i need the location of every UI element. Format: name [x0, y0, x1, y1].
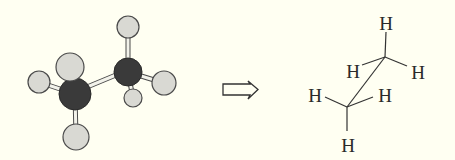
carbon-atom-c2 — [114, 58, 142, 86]
bond-lower-c-left-h — [325, 97, 347, 107]
hydrogen-labels: H H H H H H — [308, 13, 425, 156]
h-label-right: H — [411, 62, 425, 83]
hydrogen-atom-h5 — [56, 53, 84, 81]
h-label-top: H — [379, 13, 393, 34]
h-label-mid-right: H — [378, 85, 392, 106]
h-label-left: H — [308, 85, 322, 106]
hydrogen-atom-h3 — [152, 71, 176, 95]
ball-and-stick-model: H H H H H H — [0, 0, 455, 160]
hydrogen-atom-h1 — [117, 16, 139, 38]
hydrogen-atom-h2 — [28, 71, 50, 93]
hydrogen-atom-h6 — [63, 124, 89, 150]
line-structure — [325, 32, 407, 131]
hydrogen-atom-h4 — [124, 89, 142, 107]
carbon-atom-c1 — [59, 78, 91, 110]
h-label-bottom: H — [341, 135, 355, 156]
ethane-conversion-diagram: H H H H H H — [0, 0, 455, 160]
right-arrow-icon — [223, 81, 258, 99]
bond-upper-c-top-h — [385, 32, 386, 57]
bond-upper-c-right-h — [385, 57, 407, 66]
bonds — [39, 27, 164, 137]
h-label-mid-left: H — [346, 61, 360, 82]
